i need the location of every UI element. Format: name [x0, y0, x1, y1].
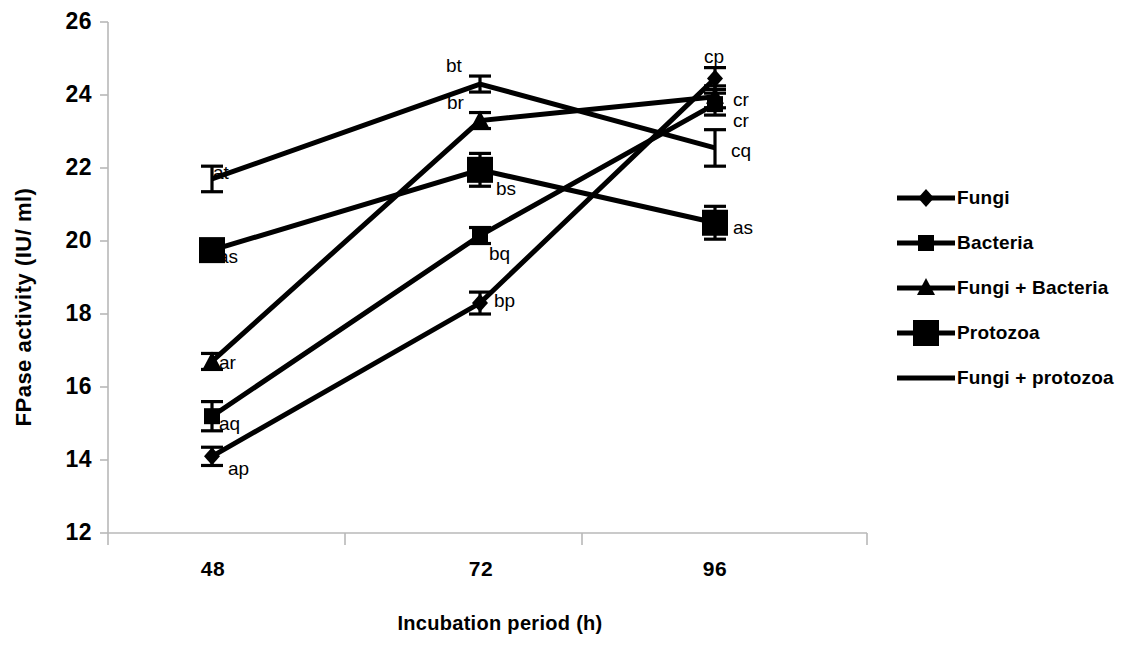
- data-point-square-large: [702, 210, 728, 236]
- legend-marker-square-small-icon: [895, 230, 957, 256]
- legend-marker-line-icon: [895, 365, 957, 391]
- legend-label: Fungi: [957, 187, 1010, 209]
- point-label-at: at: [213, 162, 229, 184]
- point-label-br: br: [447, 92, 464, 114]
- legend-item-protozoa[interactable]: Protozoa: [895, 310, 1135, 355]
- point-label-bp: bp: [494, 290, 515, 312]
- series-line-protozoa: [212, 170, 715, 250]
- point-label-ap: ap: [228, 458, 249, 480]
- legend-label: Fungi + protozoa: [957, 367, 1114, 389]
- legend-item-fungi-bacteria[interactable]: Fungi + Bacteria: [895, 265, 1135, 310]
- legend-marker-diamond-icon: [895, 185, 957, 211]
- point-label-cq: cq: [731, 140, 751, 162]
- chart-figure: FPase activity (IU/ ml) 26 24 22 20 18 1…: [0, 0, 1135, 649]
- legend-label: Fungi + Bacteria: [957, 277, 1109, 299]
- legend-marker-square-large-icon: [895, 320, 957, 346]
- point-label-as-96: as: [733, 217, 753, 239]
- legend-item-fungi[interactable]: Fungi: [895, 175, 1135, 220]
- y-axis-ticks: [100, 22, 108, 533]
- legend-label: Protozoa: [957, 322, 1040, 344]
- point-label-cr-up: cr: [733, 89, 749, 111]
- chart-legend: FungiBacteriaFungi + BacteriaProtozoaFun…: [895, 175, 1135, 400]
- point-label-bt: bt: [446, 55, 462, 77]
- axis-lines: [108, 22, 867, 533]
- data-point-square-small: [472, 228, 488, 244]
- data-point-square-small: [204, 408, 220, 424]
- point-label-ar: ar: [219, 352, 236, 374]
- data-point-diamond: [204, 447, 220, 465]
- point-label-cp: cp: [704, 46, 724, 68]
- legend-item-bacteria[interactable]: Bacteria: [895, 220, 1135, 265]
- point-label-cr-lo: cr: [733, 110, 749, 132]
- point-label-as-48: as: [218, 246, 238, 268]
- point-label-aq: aq: [219, 413, 240, 435]
- point-label-bs: bs: [496, 178, 516, 200]
- legend-marker-triangle-icon: [895, 275, 957, 301]
- legend-label: Bacteria: [957, 232, 1034, 254]
- point-label-bq: bq: [489, 243, 510, 265]
- data-point-square-large: [467, 157, 493, 183]
- series-layer: [199, 68, 728, 466]
- legend-item-fungi-protozoa[interactable]: Fungi + protozoa: [895, 355, 1135, 400]
- x-axis-ticks: [108, 533, 867, 545]
